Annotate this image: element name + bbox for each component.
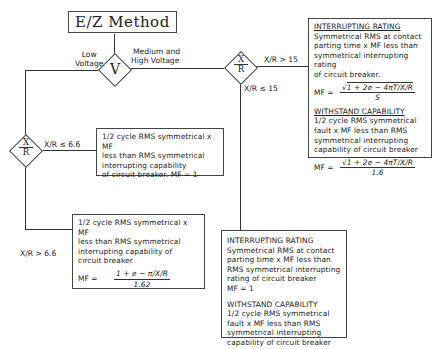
title-text: E/Z Method [75,13,170,31]
mid-withstand-heading: WITHSTAND CAPABILITY [227,300,341,310]
medium-high-voltage-label: Medium and High Voltage [131,47,180,65]
xr-le-6-6-label: X/R ≤ 6.6 [44,140,80,149]
xr-greater-15-label: X/R > 15 [264,55,298,64]
low-xr-mf-formula: MF = 1 + e − π/X/R1.62 [78,269,199,289]
connector-title-to-v [114,34,115,54]
connector-left-down-1 [25,70,26,142]
title-box: E/Z Method [68,11,177,33]
interrupting-heading: INTERRUPTING RATING [314,22,426,32]
low-xr-mf1-box: 1/2 cycle RMS symmetrical x MF less than… [96,128,224,176]
mid-interrupting-heading: INTERRUPTING RATING [227,236,341,246]
xr-greater-6-6-label: X/R > 6.6 [20,249,56,258]
low-voltage-label: Low Voltage [75,50,103,68]
connector-xr-left-right [42,150,98,151]
decision-xr-left-symbol: X R [19,138,33,157]
connector-left-to-large-box [25,229,73,230]
withstand-mf-formula: MF = √1 + 2e − 4πT/X/R1.6 [314,158,426,178]
high-xr-box: INTERRUPTING RATING Symmetrical RMS at c… [308,18,432,158]
connector-xr-down [240,82,241,230]
interrupting-mf-formula: MF = √1 + 2e − 4πT/X/RS [314,83,426,103]
decision-xr-top-symbol: X R [234,55,248,74]
connector-v-right [128,68,224,69]
connector-xr-right [254,66,308,67]
decision-voltage-symbol: V [108,61,122,77]
connector-v-left [25,70,102,71]
mid-xr-box: INTERRUPTING RATING Symmetrical RMS at c… [221,230,347,338]
withstand-heading: WITHSTAND CAPABILITY [314,107,426,117]
low-xr-formula-box: 1/2 cycle RMS symmetrical x MF less than… [72,214,205,289]
xr-le-15-label: X/R ≤ 15 [244,84,278,93]
connector-left-down-2 [25,160,26,230]
